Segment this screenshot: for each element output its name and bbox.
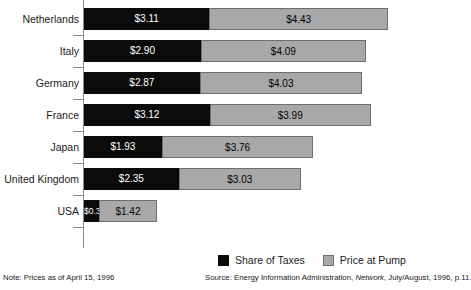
footer-source-suffix: , July/August, 1996, p.11.: [384, 273, 471, 282]
legend-item-price-at-pump: Price at Pump: [323, 254, 406, 266]
bar-segment-share-of-taxes: $2.90: [84, 40, 201, 62]
footer-source: Source: Energy Information Administratio…: [205, 273, 471, 282]
bar-segment-price-at-pump: $1.42: [99, 200, 156, 222]
bar-segment-price-at-pump: $3.99: [210, 104, 371, 126]
category-label: Germany: [0, 72, 79, 94]
bar-segment-price-at-pump: $4.43: [209, 8, 388, 30]
bar-segment-share-of-taxes: $3.12: [84, 104, 210, 126]
axis-tick: [73, 227, 83, 228]
axis-tick: [73, 163, 83, 164]
bar-segment-share-of-taxes: $3.11: [84, 8, 209, 30]
category-label: Italy: [0, 40, 79, 62]
stacked-bar: $3.11$4.43: [84, 8, 388, 30]
axis-tick: [73, 99, 83, 100]
legend-swatch-pump-icon: [323, 255, 334, 266]
axis-tick: [73, 35, 83, 36]
legend-label-taxes: Share of Taxes: [235, 254, 305, 266]
legend-item-share-of-taxes: Share of Taxes: [218, 254, 305, 266]
axis-tick: [73, 195, 83, 196]
footer-note: Note: Prices as of April 15, 1996: [3, 273, 114, 282]
bar-segment-share-of-taxes: $0.38: [84, 200, 99, 222]
bar-segment-share-of-taxes: $1.93: [84, 136, 162, 158]
axis-tick: [73, 131, 83, 132]
chart-legend: Share of Taxes Price at Pump: [218, 252, 424, 268]
stacked-bar: $1.93$3.76: [84, 136, 313, 158]
stacked-bar: $2.87$4.03: [84, 72, 362, 94]
footer-source-publication: Network: [355, 273, 384, 282]
category-label: United Kingdom: [0, 168, 79, 190]
stacked-bar: $3.12$3.99: [84, 104, 371, 126]
legend-swatch-taxes-icon: [218, 255, 229, 266]
bar-segment-price-at-pump: $4.03: [200, 72, 362, 94]
bar-row: United Kingdom$2.35$3.03: [0, 168, 419, 190]
stacked-bar: $2.90$4.09: [84, 40, 366, 62]
category-label: France: [0, 104, 79, 126]
category-label: Japan: [0, 136, 79, 158]
bar-segment-share-of-taxes: $2.35: [84, 168, 179, 190]
bar-row: Germany$2.87$4.03: [0, 72, 419, 94]
bar-segment-price-at-pump: $3.03: [179, 168, 301, 190]
stacked-bar: $2.35$3.03: [84, 168, 301, 190]
bar-segment-share-of-taxes: $2.87: [84, 72, 200, 94]
stacked-bar-chart: Netherlands$3.11$4.43Italy$2.90$4.09Germ…: [0, 0, 419, 248]
stacked-bar: $0.38$1.42: [84, 200, 157, 222]
bar-row: Netherlands$3.11$4.43: [0, 8, 419, 30]
bar-row: USA$0.38$1.42: [0, 200, 419, 222]
category-label: USA: [0, 200, 79, 222]
axis-tick: [73, 67, 83, 68]
bar-row: Japan$1.93$3.76: [0, 136, 419, 158]
bar-segment-price-at-pump: $3.76: [162, 136, 314, 158]
legend-label-pump: Price at Pump: [340, 254, 406, 266]
category-label: Netherlands: [0, 8, 79, 30]
bar-segment-price-at-pump: $4.09: [201, 40, 366, 62]
bar-row: Italy$2.90$4.09: [0, 40, 419, 62]
bar-row: France$3.12$3.99: [0, 104, 419, 126]
footer-source-prefix: Source: Energy Information Administratio…: [205, 273, 355, 282]
